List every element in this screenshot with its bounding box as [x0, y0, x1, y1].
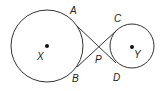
tangent-circles-diagram — [0, 0, 166, 91]
label-a: A — [70, 6, 77, 16]
center-x-dot — [45, 44, 49, 48]
label-c: C — [114, 14, 121, 24]
label-x: X — [37, 52, 44, 62]
label-p: P — [95, 55, 102, 65]
label-y: Y — [134, 50, 141, 60]
label-d: D — [113, 73, 120, 83]
label-b: B — [72, 74, 79, 84]
